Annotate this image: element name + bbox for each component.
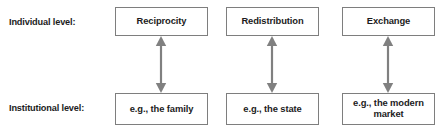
node-box-family: e.g., the family: [115, 93, 208, 125]
double-headed-vertical-arrow-icon-exchange: [380, 36, 396, 93]
double-headed-vertical-arrow-icon-reciprocity: [153, 36, 169, 93]
node-box-exchange: Exchange: [342, 7, 435, 36]
node-box-reciprocity: Reciprocity: [115, 7, 208, 36]
node-box-redistribution: Redistribution: [226, 7, 319, 36]
row-label-individual-level: Individual level:: [9, 18, 75, 27]
double-headed-vertical-arrow-icon-redistribution: [264, 36, 280, 93]
node-box-state: e.g., the state: [226, 93, 319, 125]
row-label-institutional-level: Institutional level:: [9, 104, 84, 113]
node-box-modern-market: e.g., the modern market: [342, 93, 435, 125]
diagram-canvas: Individual level: Institutional level: R…: [0, 0, 445, 138]
